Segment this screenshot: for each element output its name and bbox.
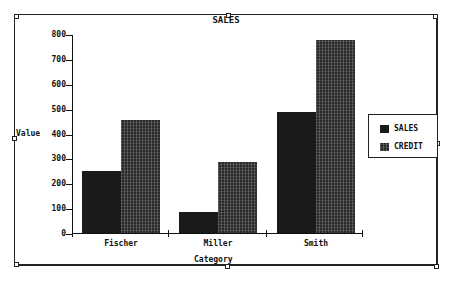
bar-credit-smith[interactable] <box>316 40 355 234</box>
legend-label-credit: CREDIT <box>394 142 423 151</box>
y-tick-label: 400 <box>52 131 66 139</box>
y-tick-label: 0 <box>61 230 66 238</box>
y-tick-label: 800 <box>52 31 66 39</box>
y-tick-label: 100 <box>52 205 66 213</box>
x-category-label: Miller <box>170 239 266 248</box>
y-tick-label: 600 <box>52 81 66 89</box>
bar-sales-fischer[interactable] <box>82 171 121 234</box>
bar-sales-miller[interactable] <box>179 212 218 234</box>
resize-handle-bottom-right[interactable] <box>434 264 439 269</box>
legend-label-sales: SALES <box>394 124 418 133</box>
bar-sales-smith[interactable] <box>277 112 316 234</box>
y-axis-title: Value <box>16 129 40 138</box>
y-tick-label: 500 <box>52 106 66 114</box>
x-axis-title: Category <box>194 255 233 264</box>
y-tick-label: 200 <box>52 180 66 188</box>
legend-swatch-credit <box>380 143 389 151</box>
legend-item-sales: SALES <box>380 124 418 133</box>
bar-credit-fischer[interactable] <box>121 120 160 234</box>
bar-credit-miller[interactable] <box>218 162 257 234</box>
resize-handle-bottom[interactable] <box>225 264 230 269</box>
y-tick-label: 300 <box>52 155 66 163</box>
resize-handle-bottom-left[interactable] <box>14 262 19 267</box>
x-category-label: Fischer <box>73 239 169 248</box>
legend-swatch-sales <box>380 125 389 133</box>
y-tick-label: 700 <box>52 56 66 64</box>
legend-item-credit: CREDIT <box>380 142 423 151</box>
chart-title: SALES <box>0 15 452 25</box>
x-axis <box>72 233 363 234</box>
y-axis <box>72 35 73 234</box>
x-category-label: Smith <box>268 239 364 248</box>
legend[interactable]: SALES CREDIT <box>368 114 438 158</box>
